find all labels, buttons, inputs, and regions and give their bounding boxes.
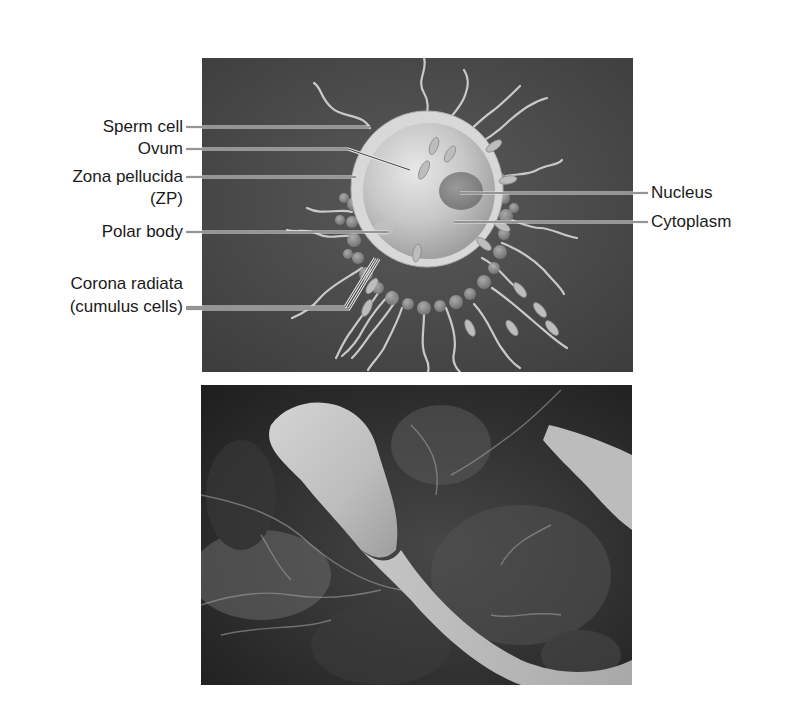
label-sperm-cell: Sperm cell: [103, 117, 183, 137]
label-cumulus-cells: (cumulus cells): [70, 297, 183, 317]
sem-micrograph-panel: [201, 385, 632, 685]
label-polar-body: Polar body: [102, 222, 183, 242]
ovum-illustration: [202, 58, 633, 372]
polar-body: [374, 220, 394, 236]
label-zona-pellucida: Zona pellucida: [72, 167, 183, 187]
label-corona-radiata: Corona radiata: [71, 274, 183, 294]
sem-micrograph: [201, 385, 632, 685]
ovum-illustration-panel: [202, 58, 633, 372]
label-ovum: Ovum: [138, 139, 183, 159]
nucleus: [439, 172, 483, 210]
label-zona-pellucida-abbrev: (ZP): [150, 189, 183, 209]
label-cytoplasm: Cytoplasm: [651, 212, 731, 232]
label-nucleus: Nucleus: [651, 183, 712, 203]
